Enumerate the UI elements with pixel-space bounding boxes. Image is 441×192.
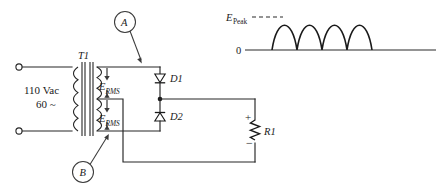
diode-d2-label: D2 xyxy=(169,111,184,122)
transformer-t1: T1 xyxy=(74,50,256,162)
waveform-plot: E Peak 0 xyxy=(225,12,436,56)
diode-d1 xyxy=(155,74,165,83)
callout-b: B xyxy=(73,134,109,183)
source-label-group: 110 Vac 60 ~ xyxy=(24,84,59,110)
primary-winding xyxy=(74,67,79,131)
transformer-ref-label: T1 xyxy=(78,50,89,61)
schematic-svg: T1 E RMS E RMS 110 Vac 60 ~ xyxy=(0,0,441,192)
output-loop xyxy=(160,99,255,162)
input-terminal-bottom xyxy=(16,128,22,134)
resistor-r1: R1 + − xyxy=(245,111,276,150)
callout-a-arrowhead xyxy=(137,58,142,64)
callout-a-leader xyxy=(130,31,141,60)
ermms-bottom-arrowhead xyxy=(104,108,109,113)
resistor-plus-label: + xyxy=(245,111,251,123)
input-terminal-top xyxy=(16,64,22,70)
diode-d2 xyxy=(155,113,165,122)
source-frequency-label: 60 ~ xyxy=(36,98,56,110)
callout-b-leader xyxy=(90,137,107,165)
d2-triangle xyxy=(155,113,165,121)
ermms-top-arrowhead xyxy=(104,76,109,81)
callout-b-label: B xyxy=(80,167,87,178)
resistor-ref-label: R1 xyxy=(263,126,276,137)
waveform-curve xyxy=(272,25,372,50)
figure-canvas: T1 E RMS E RMS 110 Vac 60 ~ xyxy=(0,0,441,192)
waveform-peak-label: E xyxy=(225,12,233,23)
callout-a: A xyxy=(115,12,142,64)
diode-d1-label: D1 xyxy=(169,73,183,84)
waveform-zero-label: 0 xyxy=(236,45,241,56)
source-voltage-label: 110 Vac xyxy=(24,84,59,96)
waveform-peak-sublabel: Peak xyxy=(233,17,248,26)
callout-a-label: A xyxy=(120,17,128,28)
resistor-minus-label: − xyxy=(246,136,253,150)
d1-triangle xyxy=(155,74,165,83)
callout-b-arrowhead xyxy=(104,134,109,140)
